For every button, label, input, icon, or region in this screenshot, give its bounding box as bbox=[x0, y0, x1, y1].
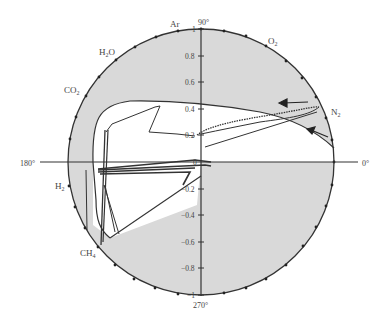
label-180deg: 180° bbox=[20, 159, 35, 168]
svg-text:0.2: 0.2 bbox=[185, 131, 195, 140]
label-h2: H2 bbox=[55, 181, 65, 192]
label-h2o: H2O bbox=[99, 47, 116, 58]
svg-text:−1: −1 bbox=[187, 291, 195, 300]
svg-text:0.8: 0.8 bbox=[185, 52, 195, 61]
svg-text:−0.4: −0.4 bbox=[181, 211, 195, 220]
label-270deg: 270° bbox=[193, 301, 208, 310]
svg-text:−0.2: −0.2 bbox=[181, 185, 195, 194]
svg-text:−0.6: −0.6 bbox=[181, 238, 195, 247]
label-o2: O2 bbox=[268, 36, 278, 47]
svg-text:−0.8: −0.8 bbox=[181, 264, 195, 273]
label-n2: N2 bbox=[331, 107, 341, 118]
svg-text:0.4: 0.4 bbox=[185, 105, 195, 114]
label-ch4: CH4 bbox=[80, 248, 96, 259]
label-0deg: 0° bbox=[362, 159, 369, 168]
label-co2: CO2 bbox=[64, 85, 80, 96]
svg-text:0: 0 bbox=[193, 158, 197, 167]
svg-text:1: 1 bbox=[192, 25, 196, 34]
label-90deg: 90° bbox=[198, 18, 209, 27]
svg-text:0.6: 0.6 bbox=[185, 78, 195, 87]
label-ar: Ar bbox=[170, 19, 180, 29]
polar-chart: 90° 270° 180° 0° Ar O2 N2 H2O CO2 H2 CH4… bbox=[0, 0, 386, 324]
